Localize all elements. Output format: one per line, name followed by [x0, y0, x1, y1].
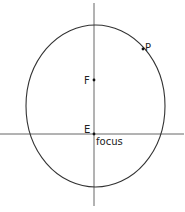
point-f-dot — [93, 79, 96, 82]
focus-label: focus — [96, 136, 123, 147]
point-f-label: F — [84, 75, 90, 86]
orbit-diagram: F E P focus — [0, 0, 185, 212]
diagram-svg: F E P focus — [0, 0, 185, 212]
point-p-dot — [142, 48, 145, 51]
point-e-label: E — [84, 124, 90, 135]
point-p-label: P — [145, 42, 151, 53]
point-e-dot — [93, 133, 96, 136]
